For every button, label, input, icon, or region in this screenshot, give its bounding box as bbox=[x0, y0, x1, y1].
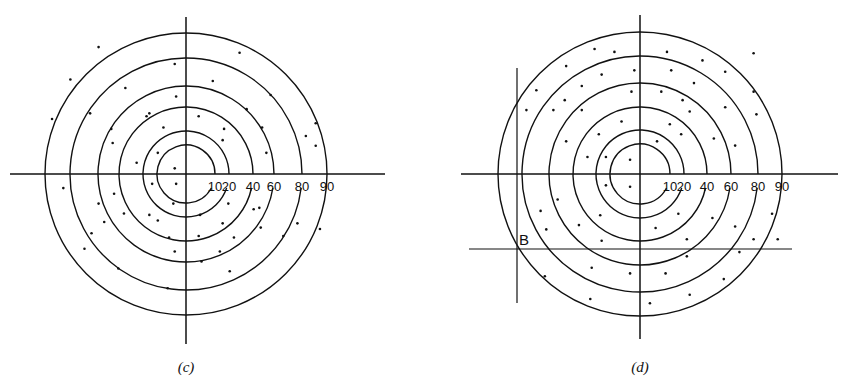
panel-caption: (d) bbox=[631, 359, 649, 376]
sample-dot bbox=[282, 235, 285, 238]
sample-dot bbox=[175, 183, 178, 186]
sample-dot bbox=[113, 192, 116, 195]
sample-dot bbox=[565, 65, 568, 68]
sample-dot bbox=[724, 70, 727, 73]
panel-caption: (c) bbox=[178, 359, 195, 376]
ring-labels: 102040608090 bbox=[208, 179, 334, 194]
ring-label-40: 40 bbox=[700, 179, 714, 194]
sample-dot bbox=[197, 235, 200, 238]
panel-c-polar-plot: 102040608090 (c) bbox=[10, 17, 385, 376]
sample-dot bbox=[173, 250, 176, 253]
sample-dot bbox=[265, 152, 268, 155]
sample-dot bbox=[589, 298, 592, 301]
sample-dot bbox=[211, 80, 214, 83]
sample-dot bbox=[269, 94, 272, 97]
ring-label-20: 20 bbox=[677, 179, 691, 194]
sample-dot bbox=[752, 90, 755, 93]
ring-label-10: 10 bbox=[208, 179, 222, 194]
ring-label-40: 40 bbox=[246, 179, 260, 194]
sample-dot bbox=[245, 108, 248, 111]
sample-dot bbox=[755, 113, 758, 116]
sample-dot bbox=[565, 140, 568, 143]
sample-dot bbox=[629, 159, 632, 162]
point-b-label: B bbox=[519, 231, 529, 248]
sample-dot bbox=[148, 214, 151, 217]
sample-dot bbox=[693, 82, 696, 85]
sample-dot bbox=[111, 142, 114, 145]
sample-dot bbox=[89, 112, 92, 115]
sample-dot bbox=[221, 222, 224, 225]
sample-dot bbox=[752, 52, 755, 55]
ring-label-80: 80 bbox=[751, 179, 765, 194]
sample-dot bbox=[90, 232, 93, 235]
panel-d-polar-plot: 102040608090 B (d) bbox=[461, 15, 838, 376]
sample-dot bbox=[69, 78, 72, 81]
sample-dot bbox=[173, 63, 176, 66]
sample-dot bbox=[103, 221, 106, 224]
sample-dot bbox=[599, 214, 602, 217]
ring-label-10: 10 bbox=[663, 179, 677, 194]
sample-dot bbox=[771, 212, 774, 215]
sample-dot bbox=[586, 156, 589, 159]
sample-dot bbox=[124, 87, 127, 90]
sample-dot bbox=[711, 217, 714, 220]
sample-dot bbox=[670, 69, 673, 72]
sample-dot bbox=[173, 167, 176, 170]
sample-dot bbox=[722, 278, 725, 281]
sample-dot bbox=[669, 123, 672, 126]
sample-dot bbox=[688, 293, 691, 296]
sample-dot bbox=[563, 99, 566, 102]
sample-dot bbox=[734, 144, 737, 147]
sample-dot bbox=[162, 126, 165, 129]
ring-label-90: 90 bbox=[775, 179, 789, 194]
sample-dot bbox=[688, 110, 691, 113]
sample-dot bbox=[83, 247, 86, 250]
sample-dot bbox=[552, 109, 555, 112]
sample-dot bbox=[252, 208, 255, 211]
sample-dot bbox=[233, 236, 236, 239]
ring-label-90: 90 bbox=[320, 179, 334, 194]
sample-dot bbox=[556, 198, 559, 201]
sample-dot bbox=[97, 46, 100, 49]
sample-dot bbox=[97, 202, 100, 205]
sample-dot bbox=[660, 90, 663, 93]
sample-dot bbox=[535, 89, 538, 92]
sample-dot bbox=[117, 267, 120, 270]
sample-dot bbox=[724, 106, 727, 109]
sample-dot bbox=[544, 275, 547, 278]
sample-dot bbox=[701, 59, 704, 62]
sample-dot bbox=[223, 128, 226, 131]
ring-label-60: 60 bbox=[267, 179, 281, 194]
sample-dot bbox=[175, 95, 178, 98]
sample-dot bbox=[51, 118, 54, 121]
sample-dot bbox=[172, 202, 175, 205]
sample-dot bbox=[620, 120, 623, 123]
sample-dot bbox=[600, 239, 603, 242]
sample-dot bbox=[590, 266, 593, 269]
sample-dot bbox=[677, 212, 680, 215]
sample-dots bbox=[525, 48, 779, 305]
sample-dot bbox=[314, 145, 317, 148]
sample-dot bbox=[168, 236, 171, 239]
sample-dot bbox=[605, 184, 608, 187]
sample-dot bbox=[259, 226, 262, 229]
sample-dot bbox=[145, 115, 148, 118]
sample-dot bbox=[227, 202, 230, 205]
sample-dot bbox=[123, 212, 126, 215]
ring-label-20: 20 bbox=[222, 179, 236, 194]
sample-dot bbox=[151, 183, 154, 186]
figure-canvas: 102040608090 (c) 102040608090 B (d) bbox=[0, 0, 843, 388]
sample-dot bbox=[305, 135, 308, 138]
sample-dot bbox=[258, 207, 261, 210]
sample-dot bbox=[629, 185, 632, 188]
sample-dot bbox=[166, 287, 169, 290]
sample-dot bbox=[238, 51, 241, 54]
sample-dot bbox=[713, 137, 716, 140]
sample-dot bbox=[613, 51, 616, 54]
sample-dot bbox=[578, 224, 581, 227]
sample-dot bbox=[664, 272, 667, 275]
ring-label-80: 80 bbox=[295, 179, 309, 194]
sample-dot bbox=[593, 48, 596, 51]
sample-dot bbox=[686, 255, 689, 258]
sample-dot bbox=[598, 133, 601, 136]
